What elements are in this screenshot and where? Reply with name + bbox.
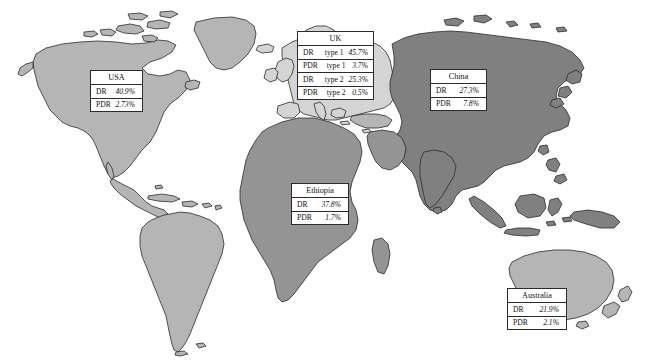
callout-ethiopia-row-pdr: PDR 1.7% [292,212,348,224]
island-caribbean-small-1 [215,205,222,210]
callout-uk-dr-type2-label: DR [303,76,320,84]
island-japan-2 [558,86,572,98]
callout-usa-pdr-value: 2.73% [115,101,137,109]
island-sri-lanka [433,207,442,214]
island-crete [340,121,350,125]
island-arctic-russia-3 [506,21,518,27]
island-newzealand-north [618,286,632,302]
callout-china-pdr-value: 7.8% [463,100,481,108]
callout-ethiopia-dr-value: 37.8% [321,201,343,209]
island-indonesia-small-2 [562,217,572,222]
callout-australia-dr-value: 21.9% [539,306,561,314]
island-arctic-russia-1 [444,18,464,26]
callout-uk-pdr-type1-type: type 1 [320,62,352,70]
callout-australia-pdr-label: PDR [513,319,531,327]
island-sumatra [469,196,506,228]
callout-china-title: China [431,70,486,84]
island-ireland [264,68,278,82]
callout-uk-dr-type1-type: type 1 [320,49,348,57]
island-newguinea [570,210,620,228]
region-south-america [140,212,224,352]
callout-usa-row-dr: DR 40.9% [91,85,142,98]
callout-australia-title: Australia [508,289,566,303]
island-arctic-russia-4 [530,23,541,28]
island-arctic-5 [84,31,98,37]
island-tierra-delfuego [175,351,188,356]
island-borneo [515,194,546,218]
callout-ethiopia[interactable]: Ethiopia DR 37.8% PDR 1.7% [291,183,349,225]
callout-usa-title: USA [91,71,142,85]
island-arctic-russia-5 [556,27,567,32]
island-tasmania [576,321,589,329]
callout-china-row-pdr: PDR 7.8% [431,98,486,110]
callout-usa-pdr-label: PDR [96,101,114,109]
callout-uk-pdr-type1-value: 3.7% [352,62,368,70]
island-indonesia-small-1 [546,221,556,226]
callout-ethiopia-dr-label: DR [297,201,315,209]
island-madagascar [372,238,390,274]
callout-uk-row-dr-type1: DR type 1 45.7% [298,46,373,59]
callout-australia-row-pdr: PDR 2.1% [508,317,566,329]
callout-uk-row-pdr-type2: PDR type 2 0.5% [298,87,373,99]
region-turkey-caucasus [350,114,392,128]
island-arctic-7 [160,11,178,18]
island-newzealand-south [602,302,620,318]
callout-ethiopia-title: Ethiopia [292,184,348,198]
island-taiwan [538,145,549,155]
island-arctic-4 [100,29,116,36]
island-caribbean-cuba [148,194,180,202]
callout-uk-dr-type1-label: DR [303,49,320,57]
callout-usa-dr-value: 40.9% [115,88,137,96]
callout-ethiopia-pdr-value: 1.7% [325,214,343,222]
island-caribbean-small-2 [155,185,163,189]
island-caribbean-hispaniola [182,201,198,207]
island-arctic-1 [116,24,144,34]
callout-ethiopia-pdr-label: PDR [297,214,315,222]
callout-uk-title: UK [298,32,373,46]
callout-ethiopia-row-dr: DR 37.8% [292,198,348,211]
callout-uk[interactable]: UK DR type 1 45.7% PDR type 1 3.7% DR ty… [297,31,374,100]
callout-australia-pdr-value: 2.1% [543,319,561,327]
callout-uk-dr-type2-value: 25.3% [348,76,368,84]
callout-china-dr-value: 27.3% [459,87,481,95]
callout-uk-pdr-type2-type: type 2 [320,89,352,97]
callout-usa-row-pdr: PDR 2.73% [91,99,142,111]
figure-root: USA DR 40.9% PDR 2.73% UK DR type 1 45.7… [0,0,645,363]
callout-uk-dr-type1-value: 45.7% [348,49,368,57]
island-caribbean-pr [202,203,212,208]
callout-uk-row-dr-type2: DR type 2 25.3% [298,73,373,86]
callout-usa-dr-label: DR [96,88,114,96]
callout-australia-dr-label: DR [513,306,531,314]
callout-uk-pdr-type1-label: PDR [303,62,320,70]
island-java [504,228,540,236]
callout-australia[interactable]: Australia DR 21.9% PDR 2.1% [507,288,567,330]
island-arctic-russia-2 [474,15,492,23]
island-greece-balkans [331,108,346,118]
island-newfoundland [185,80,200,90]
callout-usa[interactable]: USA DR 40.9% PDR 2.73% [90,70,143,112]
island-iceland [256,44,274,53]
island-arctic-3 [142,35,158,42]
callout-china-row-dr: DR 27.3% [431,84,486,97]
island-arctic-6 [128,13,148,20]
coast-west-usa [18,62,33,76]
region-asia [390,31,584,212]
callout-china-dr-label: DR [436,87,454,95]
callout-uk-pdr-type2-label: PDR [303,89,320,97]
callout-uk-row-pdr-type1: PDR type 1 3.7% [298,60,373,73]
island-iberia [277,102,300,118]
callout-china-pdr-label: PDR [436,100,454,108]
island-philippines-1 [546,158,560,172]
island-sulawesi [548,198,562,216]
island-philippines-2 [554,174,567,184]
callout-uk-pdr-type2-value: 0.5% [352,89,368,97]
island-falkland [196,343,206,348]
region-greenland [194,17,256,70]
callout-australia-row-dr: DR 21.9% [508,303,566,316]
island-arctic-2 [147,20,170,29]
callout-uk-dr-type2-type: type 2 [320,76,348,84]
callout-china[interactable]: China DR 27.3% PDR 7.8% [430,69,487,111]
